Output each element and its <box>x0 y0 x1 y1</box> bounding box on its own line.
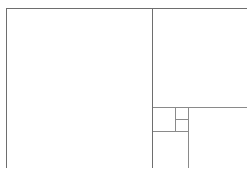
lower-right-square <box>189 108 247 168</box>
nested-rectangle-diagram <box>0 0 249 178</box>
lower-left-small-square <box>153 132 189 168</box>
mid-small-square <box>153 108 176 132</box>
upper-right-square <box>153 9 247 108</box>
tiny-square-lower <box>176 120 189 132</box>
large-square <box>7 9 153 168</box>
tiny-square-upper <box>176 108 189 120</box>
diagram-canvas <box>0 0 249 178</box>
